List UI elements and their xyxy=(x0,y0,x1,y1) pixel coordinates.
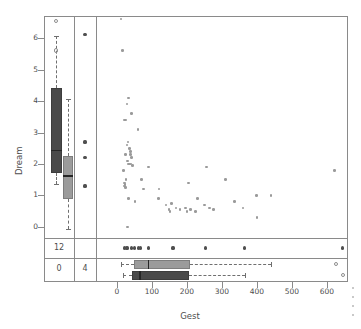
gest-missing-dream-box-whisker-right xyxy=(189,275,245,276)
x-tick-label: 200 xyxy=(173,288,201,296)
data-point xyxy=(189,208,192,211)
dream-observed-box-whisker-upper xyxy=(68,99,69,156)
edge-artifact xyxy=(352,296,354,298)
gest-observed-box-outlier xyxy=(334,262,338,266)
chart-root: Dream Gest 0123456 0100200300400500600 1… xyxy=(0,0,361,329)
dream-observed-box-whisker-lower xyxy=(68,199,69,229)
edge-artifact xyxy=(352,287,354,289)
y-tick-label: 2 xyxy=(20,160,38,168)
x-tick-label: 400 xyxy=(243,288,271,296)
data-point xyxy=(203,204,206,207)
gest-missing-dream-box-outlier xyxy=(341,273,345,277)
gest-observed-box-whisker-left xyxy=(121,264,134,265)
gest-observed-box-cap-right xyxy=(271,262,272,267)
data-point xyxy=(212,208,215,211)
data-point xyxy=(184,207,187,210)
data-point xyxy=(126,160,129,163)
missing-y-point xyxy=(243,246,246,249)
dream-observed-box-box xyxy=(63,156,73,199)
count-cell-divider-1 xyxy=(74,238,75,282)
missing-y-strip xyxy=(44,238,348,258)
x-tick-mark xyxy=(117,282,118,288)
dream-missing-gest-box-cap-lower xyxy=(54,184,59,185)
dream-missing-gest-box-median xyxy=(51,150,62,152)
data-point xyxy=(127,197,130,200)
x-tick-label: 300 xyxy=(208,288,236,296)
data-point xyxy=(130,156,133,159)
data-point xyxy=(124,153,127,156)
x-tick-label: 0 xyxy=(103,288,131,296)
edge-artifact xyxy=(352,314,354,316)
gest-missing-dream-box-median xyxy=(139,271,141,280)
y-tick-label: 6 xyxy=(20,34,38,42)
x-tick-mark xyxy=(152,282,153,288)
x-tick-label: 500 xyxy=(278,288,306,296)
gest-observed-box-box xyxy=(134,260,190,269)
y-tick-label: 0 xyxy=(20,223,38,231)
dream-missing-gest-box-whisker-upper xyxy=(56,36,57,88)
missing-y-point xyxy=(133,246,136,249)
y-tick-label: 1 xyxy=(20,191,38,199)
x-tick-label: 600 xyxy=(313,288,341,296)
data-point xyxy=(127,97,130,100)
missing-x-point xyxy=(83,184,86,187)
missing-y-point xyxy=(126,246,129,249)
data-point xyxy=(121,49,124,52)
gest-observed-box-median xyxy=(148,260,150,269)
data-point xyxy=(224,178,227,181)
dream-missing-gest-box-box xyxy=(51,88,62,173)
gest-observed-box-whisker-right xyxy=(190,264,271,265)
x-axis-title: Gest xyxy=(170,311,210,321)
edge-artifact xyxy=(352,305,354,307)
gest-observed-box-cap-left xyxy=(121,262,122,267)
data-point xyxy=(255,194,258,197)
data-point xyxy=(126,226,129,229)
x-tick-mark xyxy=(257,282,258,288)
missing-x-point xyxy=(83,140,86,143)
gest-missing-dream-box-cap-right xyxy=(245,273,246,278)
data-point xyxy=(124,119,127,122)
dream-missing-gest-box-cap-upper xyxy=(54,36,59,37)
missing-x-point xyxy=(83,156,86,159)
data-point xyxy=(122,169,125,172)
data-point xyxy=(233,200,236,203)
count-cell-divider-2 xyxy=(96,238,97,282)
x-tick-label: 100 xyxy=(138,288,166,296)
data-point xyxy=(170,202,173,205)
data-point xyxy=(124,186,127,189)
data-point xyxy=(196,197,199,200)
y-tick-label: 5 xyxy=(20,66,38,74)
count-missing-y: 12 xyxy=(44,243,74,252)
missing-y-point xyxy=(147,246,150,249)
x-tick-mark xyxy=(187,282,188,288)
x-tick-mark xyxy=(222,282,223,288)
data-point xyxy=(131,164,134,167)
y-tick-label: 3 xyxy=(20,129,38,137)
count-missing-x: 4 xyxy=(74,264,96,273)
missing-y-point xyxy=(204,246,207,249)
data-point xyxy=(333,169,336,172)
dream-observed-box-cap-lower xyxy=(66,229,71,230)
data-point xyxy=(137,128,140,131)
dream-missing-gest-box-whisker-lower xyxy=(56,173,57,184)
dream-missing-gest-box-outlier xyxy=(54,48,58,52)
missing-x-strip-divider xyxy=(74,16,75,238)
scatter-panel xyxy=(96,16,348,238)
missing-y-point xyxy=(341,246,344,249)
gest-missing-dream-box-cap-left xyxy=(123,273,124,278)
gest-missing-dream-box-whisker-left xyxy=(123,275,132,276)
data-point xyxy=(130,112,133,115)
data-point xyxy=(157,197,160,200)
dream-missing-gest-box-outlier xyxy=(54,19,58,23)
missing-y-point xyxy=(139,246,142,249)
data-point xyxy=(140,178,143,181)
dream-observed-box-cap-upper xyxy=(66,99,71,100)
data-point xyxy=(194,210,197,213)
y-tick-label: 4 xyxy=(20,97,38,105)
x-tick-mark xyxy=(327,282,328,288)
data-point xyxy=(186,210,189,213)
x-tick-mark xyxy=(292,282,293,288)
dream-observed-box-median xyxy=(63,175,73,177)
missing-y-point xyxy=(171,246,174,249)
count-missing-both: 0 xyxy=(44,264,74,273)
